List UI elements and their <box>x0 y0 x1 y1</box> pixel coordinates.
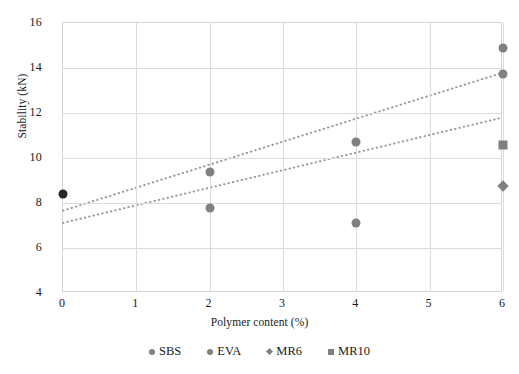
gridline-horizontal <box>63 68 501 69</box>
legend-item-label: MR10 <box>338 344 370 359</box>
gridline-horizontal <box>63 158 501 159</box>
trendlines-layer <box>63 23 501 291</box>
gridline-vertical <box>283 23 284 291</box>
data-point-mr10 <box>499 140 508 149</box>
legend-square-icon <box>328 349 334 355</box>
x-axis-tick-labels: 0123456 <box>0 296 519 316</box>
y-tick-label: 6 <box>16 240 42 255</box>
data-point-sbs <box>499 69 508 78</box>
data-point-sbs <box>205 167 214 176</box>
y-tick-label: 14 <box>16 60 42 75</box>
y-tick-label: 10 <box>16 150 42 165</box>
gridline-vertical <box>503 23 504 291</box>
data-point-eva <box>352 219 361 228</box>
y-tick-label: 16 <box>16 15 42 30</box>
x-axis-title: Polymer content (%) <box>0 316 519 328</box>
data-point-sbs <box>59 190 68 199</box>
legend-item-label: SBS <box>159 344 181 359</box>
trendline-lower <box>63 118 501 223</box>
legend-circle-icon <box>149 349 155 355</box>
x-tick-label: 0 <box>45 296 79 311</box>
chart-legend: SBSEVAMR6MR10 <box>0 344 519 359</box>
x-tick-label: 4 <box>338 296 372 311</box>
x-tick-label: 1 <box>118 296 152 311</box>
legend-item-label: EVA <box>217 344 241 359</box>
chart-figure: Stability (kN) 46810121416 0123456 Polym… <box>0 0 519 374</box>
x-tick-label: 6 <box>485 296 519 311</box>
legend-circle-icon <box>207 349 213 355</box>
y-tick-label: 8 <box>16 195 42 210</box>
plot-area <box>62 22 502 292</box>
gridline-vertical <box>430 23 431 291</box>
gridline-vertical <box>356 23 357 291</box>
trendline-upper <box>63 73 501 210</box>
gridline-horizontal <box>63 248 501 249</box>
gridline-vertical <box>210 23 211 291</box>
data-point-eva <box>205 203 214 212</box>
gridline-vertical <box>136 23 137 291</box>
legend-item-mr10[interactable]: MR10 <box>328 344 370 359</box>
legend-item-mr6[interactable]: MR6 <box>267 344 302 359</box>
legend-item-sbs[interactable]: SBS <box>149 344 181 359</box>
x-tick-label: 2 <box>192 296 226 311</box>
legend-item-label: MR6 <box>276 344 302 359</box>
legend-item-eva[interactable]: EVA <box>207 344 241 359</box>
data-point-sbs <box>499 43 508 52</box>
data-point-sbs <box>352 138 361 147</box>
legend-diamond-icon <box>266 348 273 355</box>
y-tick-label: 12 <box>16 105 42 120</box>
x-tick-label: 3 <box>265 296 299 311</box>
x-tick-label: 5 <box>412 296 446 311</box>
gridline-horizontal <box>63 203 501 204</box>
gridline-horizontal <box>63 113 501 114</box>
